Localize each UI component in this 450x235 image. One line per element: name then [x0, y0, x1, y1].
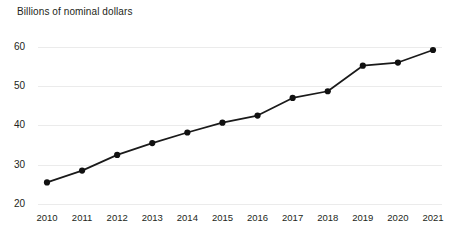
x-axis-tick-label: 2011	[72, 213, 92, 223]
y-axis-tick-label: 20	[14, 199, 36, 209]
data-point	[395, 59, 401, 65]
data-point	[79, 168, 85, 174]
x-axis-tick-label: 2017	[282, 213, 303, 223]
data-point	[149, 140, 155, 146]
data-point	[219, 120, 225, 126]
x-axis-tick-label: 2013	[142, 213, 163, 223]
x-axis-tick-label: 2021	[422, 213, 443, 223]
x-axis-tick-label: 2019	[352, 213, 373, 223]
x-axis-tick-label: 2015	[212, 213, 233, 223]
data-point	[44, 179, 50, 185]
plot-area	[38, 39, 442, 204]
series-nominal-dollars	[38, 39, 442, 204]
data-point	[325, 88, 331, 94]
y-axis-tick-label: 60	[14, 42, 36, 52]
data-point	[184, 129, 190, 135]
gridline	[38, 204, 442, 205]
x-axis-tick-label: 2012	[107, 213, 128, 223]
y-axis-tick-label: 50	[14, 81, 36, 91]
x-axis-tick-label: 2018	[317, 213, 338, 223]
series-line	[47, 50, 433, 182]
y-axis-tick-label: 40	[14, 120, 36, 130]
x-axis-tick-label: 2014	[177, 213, 198, 223]
data-point	[254, 113, 260, 119]
data-point	[290, 95, 296, 101]
line-chart: Billions of nominal dollars 2030405060 2…	[0, 0, 450, 235]
series-markers	[44, 47, 436, 186]
x-axis-tick-label: 2010	[36, 213, 57, 223]
y-axis-tick-label: 30	[14, 160, 36, 170]
x-axis-tick-label: 2016	[247, 213, 268, 223]
chart-axis-title: Billions of nominal dollars	[17, 6, 133, 18]
x-axis-tick-label: 2020	[387, 213, 408, 223]
data-point	[114, 152, 120, 158]
data-point	[360, 63, 366, 69]
data-point	[430, 47, 436, 53]
